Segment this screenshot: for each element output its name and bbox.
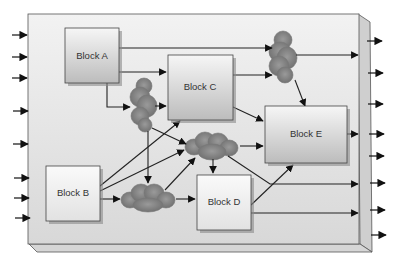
- board-right-edge: [358, 14, 372, 252]
- block-diagram: Block A Block B Block C Block D Block E: [0, 0, 394, 259]
- block-a: Block A: [65, 28, 122, 86]
- block-d-label: Block D: [208, 196, 241, 207]
- board-bottom-edge: [29, 244, 372, 252]
- input-arrows: [12, 35, 30, 218]
- block-b: Block B: [46, 166, 103, 224]
- block-a-label: Block A: [76, 50, 108, 61]
- block-d: Block D: [197, 175, 254, 233]
- block-b-label: Block B: [57, 187, 89, 198]
- block-e: Block E: [265, 106, 350, 166]
- block-c-label: Block C: [184, 81, 217, 92]
- block-e-label: Block E: [290, 128, 322, 139]
- block-c: Block C: [168, 55, 236, 123]
